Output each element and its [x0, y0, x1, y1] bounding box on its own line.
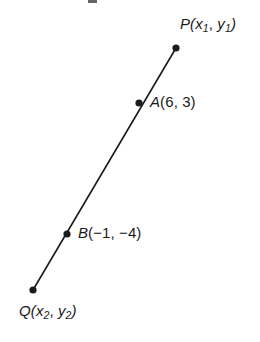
label-p-var-x: x [195, 15, 203, 32]
label-p-letter: P [180, 15, 190, 32]
point-label-q: Q(x2, y2) [19, 303, 77, 320]
label-b-letter: B [78, 224, 88, 241]
clipped-edge-artifact [88, 0, 97, 3]
point-label-b: B(−1, −4) [78, 225, 141, 240]
label-p-close-paren: ) [231, 15, 236, 32]
label-p-var-y: y [217, 15, 225, 32]
label-b-body: (−1, −4) [88, 224, 141, 241]
line-segment-figure: P(x1, y1) A(6, 3) B(−1, −4) Q(x2, y2) [0, 0, 260, 342]
point-dot-q [29, 286, 36, 293]
point-dot-p [172, 44, 179, 51]
label-q-letter: Q [19, 302, 31, 319]
label-a-body: (6, 3) [160, 93, 196, 110]
label-q-close-paren: ) [72, 302, 77, 319]
figure-canvas [0, 0, 260, 342]
label-q-var-y: y [58, 302, 66, 319]
label-a-letter: A [150, 93, 160, 110]
point-label-p: P(x1, y1) [180, 16, 236, 33]
label-q-var-x: x [36, 302, 44, 319]
point-dot-a [135, 99, 142, 106]
point-dot-b [63, 230, 70, 237]
point-label-a: A(6, 3) [150, 94, 196, 109]
segment-pq [33, 48, 176, 290]
label-q-comma: , [49, 302, 58, 319]
